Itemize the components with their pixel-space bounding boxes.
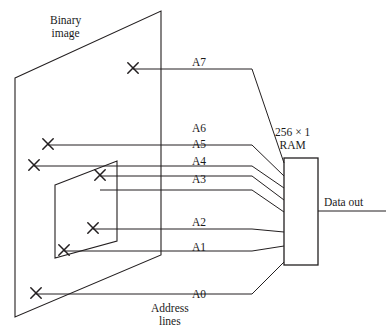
ram-group — [284, 158, 386, 265]
address-label-a1: A1 — [192, 241, 206, 254]
binary-image-plane — [15, 11, 161, 317]
address-line-a7 — [133, 69, 284, 163]
sample-point-a6-icon — [43, 139, 53, 149]
address-label-a3: A3 — [192, 173, 206, 186]
sample-point-a4-a3-icon — [95, 170, 105, 180]
address-line-a2 — [93, 229, 284, 232]
address-label-a0: A0 — [192, 288, 206, 301]
sample-point-a5-icon — [29, 160, 39, 170]
address-line-a3 — [100, 190, 284, 212]
sample-marker-group — [29, 63, 138, 298]
data-out-label: Data out — [324, 196, 363, 209]
address-label-a7: A7 — [192, 56, 206, 69]
image-plane-group — [15, 11, 161, 317]
binary-image-label: Binary image — [50, 14, 81, 40]
ram-block — [284, 158, 318, 265]
sample-point-a7-icon — [128, 63, 138, 73]
address-label-a4: A4 — [192, 155, 206, 168]
address-label-a5: A5 — [192, 138, 206, 151]
address-line-a5 — [34, 166, 284, 188]
sample-point-a0-icon — [31, 288, 41, 298]
address-label-a2: A2 — [192, 216, 206, 229]
sample-point-a1-icon — [59, 245, 69, 255]
address-line-group — [34, 69, 284, 294]
address-line-a0 — [36, 262, 284, 294]
address-line-a6 — [48, 145, 284, 176]
address-label-a6: A6 — [192, 122, 206, 135]
ram-label: 256 × 1 RAM — [275, 126, 310, 152]
binary-image-ram-diagram: Binary image 256 × 1 RAM Data out Addres… — [0, 0, 392, 335]
sample-point-a2-icon — [88, 223, 98, 233]
address-lines-label: Address lines — [151, 302, 189, 328]
